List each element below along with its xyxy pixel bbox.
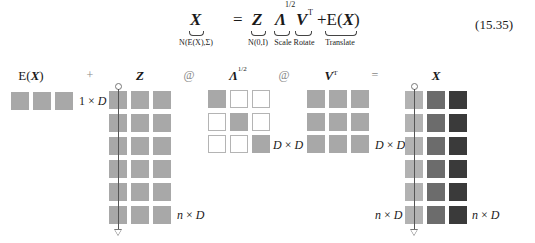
underbrace — [325, 31, 357, 36]
eq-translate: +E(X) — [317, 10, 360, 30]
matrix-cell — [153, 91, 171, 109]
matrix-cell — [307, 135, 325, 153]
eq-vt-sup: T — [308, 8, 313, 17]
matrix-cell — [153, 114, 171, 132]
matrix-cell — [449, 183, 467, 201]
label-z: Z — [136, 68, 144, 84]
eq-lhs-x: X — [190, 10, 201, 30]
matrix-cell — [33, 92, 51, 110]
equation-number: (15.35) — [475, 17, 513, 33]
matrix-cell-zero — [208, 113, 226, 131]
arrow-down-icon — [114, 229, 122, 236]
matrix-cell-zero — [230, 90, 248, 108]
eq-lambda: Λ — [275, 10, 286, 30]
matrix-cell — [427, 160, 445, 178]
arrow-line — [118, 89, 119, 229]
matrix-cell — [131, 114, 149, 132]
matrix-cell-diagonal — [208, 90, 226, 108]
matrix-cell-diagonal — [252, 135, 270, 153]
matrix-cell — [449, 114, 467, 132]
eq-equals: = — [233, 10, 243, 30]
dim-z: n × D — [177, 208, 204, 223]
op-equals: = — [372, 68, 379, 83]
matrix-cell — [449, 206, 467, 224]
matrix-cell — [329, 113, 347, 131]
matrix-cell — [131, 160, 149, 178]
matrix-cell — [55, 92, 73, 110]
eq-vt: V — [296, 10, 307, 30]
label-vt: VT — [325, 68, 338, 84]
eq-z: Z — [252, 10, 262, 30]
matrix-cell — [131, 206, 149, 224]
label-lambda: Λ1/2 — [229, 68, 247, 84]
dim-x-right: n × D — [472, 208, 499, 223]
eq-lambda-under: Scale — [272, 38, 294, 47]
underbrace — [295, 31, 312, 36]
matrix-cell-zero — [208, 135, 226, 153]
matrix-cell — [449, 91, 467, 109]
matrix-cell — [131, 183, 149, 201]
matrix-cell — [351, 90, 369, 108]
op-matmul-2: @ — [278, 68, 289, 83]
underbrace — [274, 31, 290, 36]
dim-ex: 1 × D — [79, 94, 106, 109]
dim-lambda: D × D — [273, 138, 303, 153]
matrix-cell — [427, 91, 445, 109]
dim-x-left: n × D — [375, 208, 402, 223]
op-plus: + — [87, 68, 94, 83]
matrix-cell — [427, 137, 445, 155]
matrix-cell — [427, 206, 445, 224]
matrix-cell — [307, 90, 325, 108]
matrix-cell — [11, 92, 29, 110]
matrix-cell-zero — [252, 90, 270, 108]
matrix-cell — [153, 183, 171, 201]
op-matmul-1: @ — [183, 68, 194, 83]
matrix-cell — [427, 183, 445, 201]
matrix-cell — [449, 160, 467, 178]
dim-vt: D × D — [375, 138, 405, 153]
eq-lambda-sup: 1/2 — [285, 0, 295, 9]
arrow-line — [414, 89, 415, 229]
eq-translate-under: Translate — [322, 38, 358, 47]
label-ex: E(X) — [18, 68, 43, 84]
matrix-cell — [153, 137, 171, 155]
eq-vt-under: Rotate — [292, 38, 316, 47]
matrix-cell — [351, 135, 369, 153]
matrix-cell — [153, 160, 171, 178]
matrix-cell — [307, 113, 325, 131]
underbrace — [189, 31, 204, 36]
matrix-cell — [153, 206, 171, 224]
matrix-cell — [427, 114, 445, 132]
arrow-down-icon — [410, 229, 418, 236]
matrix-cell — [131, 137, 149, 155]
matrix-cell-diagonal — [230, 113, 248, 131]
matrix-cell — [329, 135, 347, 153]
eq-z-under: N(0,I) — [240, 38, 276, 47]
matrix-cell — [131, 91, 149, 109]
matrix-cell — [449, 137, 467, 155]
equation: X N(E(X),Σ) = Z N(0,I) Λ 1/2 Scale V T R… — [0, 0, 535, 62]
underbrace — [251, 31, 266, 36]
matrix-cell — [351, 113, 369, 131]
eq-lhs-under: N(E(X),Σ) — [170, 38, 222, 47]
matrix-cell-zero — [252, 113, 270, 131]
matrix-cell-zero — [230, 135, 248, 153]
label-x: X — [432, 68, 441, 84]
matrix-cell — [329, 90, 347, 108]
